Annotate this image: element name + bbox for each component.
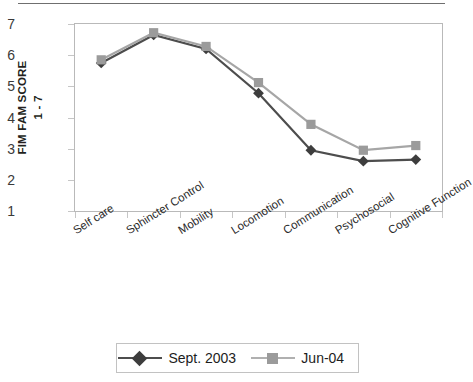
legend-marker-diamond-icon bbox=[118, 352, 162, 364]
data-point-square-icon bbox=[201, 42, 210, 51]
data-point-square-icon bbox=[306, 120, 315, 129]
y-axis-title-line1: FIM FAM SCORE bbox=[16, 61, 28, 155]
y-axis-tick-label: 6 bbox=[0, 47, 15, 63]
y-axis-tick-label: 3 bbox=[0, 141, 15, 157]
y-axis-tick-label: 1 bbox=[0, 203, 15, 219]
data-point-square-icon bbox=[254, 78, 263, 87]
data-point-square-icon bbox=[411, 141, 420, 150]
y-axis-tick-label: 4 bbox=[0, 110, 15, 126]
data-point-diamond-icon bbox=[410, 154, 421, 165]
header-divider bbox=[18, 3, 445, 4]
data-point-square-icon bbox=[149, 28, 158, 37]
legend-item-series-1[interactable]: Sept. 2003 bbox=[117, 350, 238, 366]
y-axis-title-line2: 1 - 7 bbox=[31, 61, 47, 155]
y-axis-tick-label: 5 bbox=[0, 78, 15, 94]
series-canvas bbox=[75, 24, 442, 211]
x-axis-tick-mark bbox=[442, 212, 443, 218]
legend-label-series-1: Sept. 2003 bbox=[168, 350, 236, 366]
plot-area bbox=[74, 23, 443, 212]
legend-label-series-2: Jun-04 bbox=[301, 350, 344, 366]
legend-marker-square-icon bbox=[251, 352, 295, 364]
y-axis-tick-label: 2 bbox=[0, 172, 15, 188]
y-axis-tick-label: 7 bbox=[0, 16, 15, 32]
legend-item-series-2[interactable]: Jun-04 bbox=[238, 350, 359, 366]
data-point-square-icon bbox=[359, 146, 368, 155]
data-point-diamond-icon bbox=[358, 156, 369, 167]
data-point-square-icon bbox=[97, 55, 106, 64]
chart-legend: Sept. 2003 Jun-04 bbox=[116, 343, 359, 373]
